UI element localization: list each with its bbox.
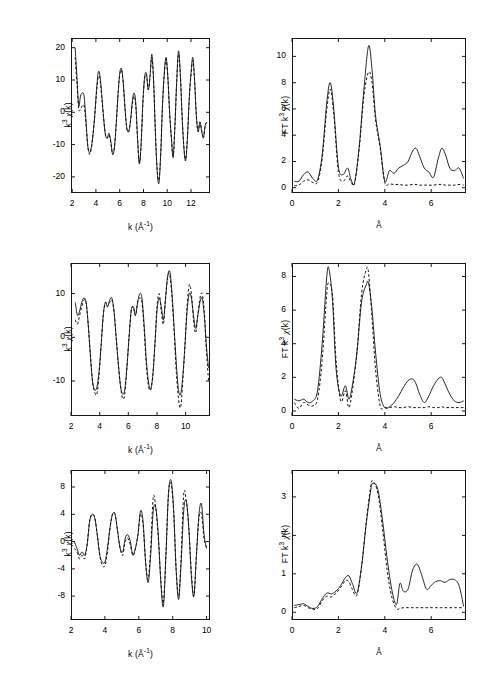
series-fit	[294, 480, 463, 609]
plot-canvas	[0, 0, 490, 695]
y-axis-label: FT k3 χ(k)	[278, 484, 290, 604]
x-tick-label: 4	[371, 625, 399, 635]
x-tick-label: 0	[278, 625, 306, 635]
x-axis-label: Å	[292, 647, 466, 657]
exafs-figure: 24681012-20-1001020k (Å-1)k3 χ(k)0246024…	[0, 0, 490, 695]
x-tick-label: 2	[324, 625, 352, 635]
y-tick-label: 0	[260, 606, 286, 616]
panel-6-ft: 02460123ÅFT k3 χ(k)	[0, 0, 490, 695]
x-tick-label: 6	[417, 625, 445, 635]
